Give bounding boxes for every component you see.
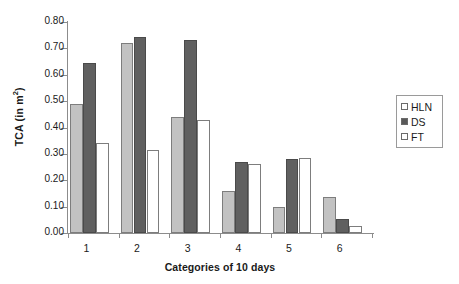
y-axis-title: TCA (in m2) [11,62,25,172]
y-tick-label: 0.80 [45,15,64,26]
x-tick-label-2: 2 [117,242,157,254]
bar-ds-cat-2 [134,37,147,233]
y-tick-label: 0.30 [45,147,64,158]
x-tick-label-6: 6 [320,242,360,254]
legend-item-hln[interactable]: HLN [401,99,442,114]
y-tick-label: 0.10 [45,200,64,211]
bar-ft-cat-3 [197,120,210,233]
y-tick-label: 0.60 [45,68,64,79]
x-tick-label-5: 5 [269,242,309,254]
bar-chart: TCA (in m2) 0.000.100.200.300.400.500.60… [0,0,459,284]
bar-hln-cat-1 [70,104,83,233]
legend-item-ds[interactable]: DS [401,114,442,129]
legend: HLN DS FT [396,95,443,148]
plot-area: 0.000.100.200.300.400.500.600.700.80 [68,22,372,233]
legend-item-ft[interactable]: FT [401,129,442,144]
bar-ft-cat-5 [299,158,312,233]
bar-hln-cat-6 [323,197,336,233]
legend-swatch-hln-icon [401,103,408,110]
bar-hln-cat-2 [121,43,134,233]
bar-ft-cat-2 [147,150,160,233]
bar-ds-cat-6 [336,219,349,234]
x-tick-label-4: 4 [218,242,258,254]
x-tick-mark [68,233,69,238]
bar-hln-cat-3 [171,117,184,233]
y-tick-label: 0.00 [45,226,64,237]
x-tick-label-3: 3 [168,242,208,254]
x-tick-mark [169,233,170,238]
y-axis-title-superscript: 2 [11,91,20,95]
y-tick-label: 0.40 [45,121,64,132]
y-axis-title-tail: ) [13,87,25,91]
x-tick-mark [220,233,221,238]
bar-ds-cat-1 [83,63,96,233]
bar-ft-cat-4 [248,164,261,233]
bar-hln-cat-4 [222,191,235,233]
legend-label-hln: HLN [411,101,432,113]
bar-ds-cat-3 [184,40,197,233]
legend-label-ds: DS [411,116,426,128]
y-axis-title-text: TCA (in m [13,95,25,146]
x-tick-mark [271,233,272,238]
x-tick-mark [372,233,373,238]
bar-ds-cat-4 [235,162,248,233]
x-tick-mark [119,233,120,238]
x-tick-mark [321,233,322,238]
bar-ds-cat-5 [286,159,299,233]
y-tick-label: 0.20 [45,173,64,184]
bar-ft-cat-6 [349,226,362,233]
legend-swatch-ds-icon [401,118,408,125]
bar-hln-cat-5 [273,207,286,233]
x-tick-label-1: 1 [66,242,106,254]
legend-label-ft: FT [411,131,424,143]
bar-ft-cat-1 [96,143,109,233]
y-tick-label: 0.70 [45,41,64,52]
legend-swatch-ft-icon [401,133,408,140]
x-axis-title: Categories of 10 days [68,261,372,273]
y-tick-label: 0.50 [45,94,64,105]
